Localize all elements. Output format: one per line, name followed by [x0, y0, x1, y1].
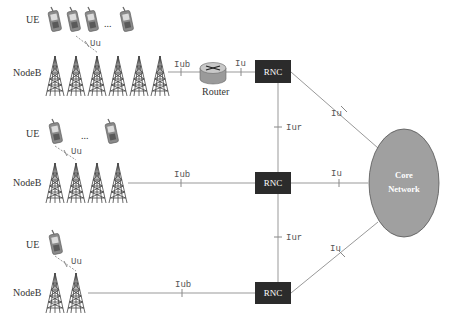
- rnc-label-3: RNC: [264, 288, 283, 298]
- cell-tower-icon: [151, 56, 169, 96]
- router-icon: [200, 63, 226, 85]
- nodeb-label-row-3: NodeB: [13, 287, 42, 298]
- iub-label-row-2: Iub: [174, 170, 190, 180]
- iub-label-row-3: Iub: [175, 280, 191, 290]
- umts-network-diagram: UE ... Uu NodeB Iub Router Iu RNC UE ...…: [0, 0, 451, 320]
- phone-icon: [120, 7, 134, 32]
- cell-tower-icon: [88, 163, 106, 203]
- ellipsis-row-1: ...: [104, 18, 112, 29]
- core-network-node: Core Network: [369, 129, 439, 237]
- iu-label-rnc1: Iu: [331, 109, 342, 119]
- cell-tower-icon: [46, 163, 64, 203]
- phone-icon: [49, 230, 63, 255]
- iu-label-rnc3: Iu: [330, 244, 341, 254]
- cell-tower-icon: [67, 56, 85, 96]
- uu-label-row-3: Uu: [71, 257, 82, 267]
- cell-tower-icon: [88, 56, 106, 96]
- phone-icon: [48, 7, 62, 32]
- nodeb-label-row-1: NodeB: [13, 67, 42, 78]
- rnc-node-1: RNC: [255, 60, 291, 83]
- iur-label-lower: Iur: [286, 233, 302, 243]
- ue-label-row-3: UE: [26, 239, 39, 250]
- cell-tower-icon: [67, 163, 85, 203]
- uu-label-row-2: Uu: [71, 147, 82, 157]
- cell-tower-icon: [46, 56, 64, 96]
- phone-icon: [105, 119, 119, 144]
- router-label: Router: [202, 86, 230, 97]
- phone-icon: [67, 7, 81, 32]
- cell-tower-icon: [46, 273, 64, 313]
- core-label-line-2: Network: [388, 184, 420, 194]
- iu-label-router: Iu: [235, 59, 246, 69]
- iu-label-rnc2: Iu: [331, 169, 342, 179]
- cell-tower-icon: [109, 163, 127, 203]
- phone-icon: [49, 119, 63, 144]
- iu-link-rnc3-core: [291, 222, 378, 293]
- ue-label-row-2: UE: [26, 128, 39, 139]
- cell-tower-icon: [130, 56, 148, 96]
- ellipsis-row-2: ...: [81, 130, 89, 141]
- iur-label-upper: Iur: [286, 123, 302, 133]
- nodeb-label-row-2: NodeB: [13, 177, 42, 188]
- uu-label-row-1: Uu: [90, 39, 101, 49]
- iub-label-row-1: Iub: [174, 60, 190, 70]
- core-label-line-1: Core: [395, 170, 413, 180]
- cell-tower-icon: [67, 273, 85, 313]
- phone-icon: [85, 7, 99, 32]
- rnc-node-3: RNC: [255, 282, 291, 304]
- cell-tower-icon: [109, 56, 127, 96]
- rnc-label-1: RNC: [264, 67, 283, 77]
- ue-label-row-1: UE: [26, 14, 39, 25]
- rnc-node-2: RNC: [255, 172, 291, 194]
- rnc-label-2: RNC: [264, 178, 283, 188]
